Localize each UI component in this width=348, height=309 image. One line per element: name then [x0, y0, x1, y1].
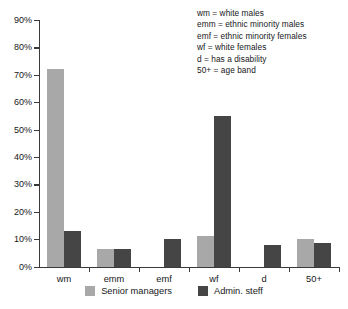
y-axis-tick: [34, 212, 39, 213]
bar: [47, 69, 64, 266]
plot-area: 0%10%20%30%40%50%60%70%80%90% wmemmemfwf…: [39, 20, 339, 268]
y-axis-line: [39, 20, 40, 268]
bar: [97, 249, 114, 267]
y-axis-tick-label: 10%: [14, 234, 32, 244]
legend-label: Admin. steff: [214, 286, 263, 296]
key-line-wm: wm = white males: [197, 8, 347, 19]
y-axis-tick-label: 70%: [14, 70, 32, 80]
y-axis-tick-label: 60%: [14, 97, 32, 107]
bar-chart: wm = white males emm = ethnic minority m…: [0, 0, 348, 309]
y-axis-tick: [34, 102, 39, 103]
legend-entry: Admin. steff: [198, 286, 263, 296]
y-axis-tick-label: 30%: [14, 179, 32, 189]
bar: [64, 231, 81, 267]
y-axis-tick: [34, 20, 39, 21]
y-axis-tick-label: 90%: [14, 15, 32, 25]
bar: [197, 236, 214, 266]
x-axis-tick: [89, 267, 90, 272]
y-axis-tick: [34, 130, 39, 131]
series-legend: Senior managersAdmin. steff: [0, 283, 348, 299]
y-axis-tick: [34, 184, 39, 185]
bar: [164, 239, 181, 266]
x-axis-tick: [339, 267, 340, 272]
x-axis-tick: [139, 267, 140, 272]
y-axis-tick: [34, 75, 39, 76]
bar: [314, 243, 331, 266]
y-axis-tick-label: 20%: [14, 207, 32, 217]
bar: [114, 249, 131, 267]
legend-entry: Senior managers: [85, 286, 172, 296]
y-axis-tick-label: 80%: [14, 42, 32, 52]
y-axis-tick-label: 50%: [14, 125, 32, 135]
bar: [297, 239, 314, 266]
legend-swatch: [85, 286, 95, 296]
legend-swatch: [198, 286, 208, 296]
bar: [264, 245, 281, 267]
y-axis-tick: [34, 267, 39, 268]
y-axis-tick: [34, 47, 39, 48]
y-axis-tick-label: 40%: [14, 152, 32, 162]
bar: [214, 116, 231, 267]
x-axis-tick: [189, 267, 190, 272]
x-axis-tick: [239, 267, 240, 272]
legend-label: Senior managers: [101, 286, 172, 296]
y-axis-tick: [34, 157, 39, 158]
y-axis-tick: [34, 239, 39, 240]
y-axis-tick-label: 0%: [19, 262, 32, 272]
x-axis-tick: [289, 267, 290, 272]
